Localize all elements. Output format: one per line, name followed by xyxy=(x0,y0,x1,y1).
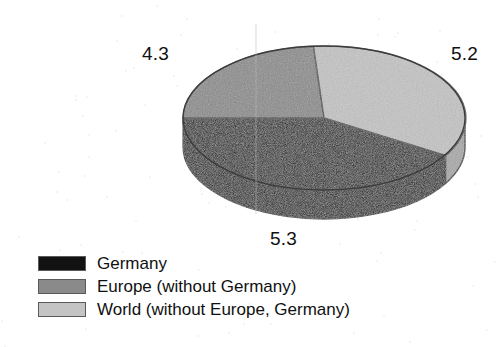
chart-legend: Germany Europe (without Germany) World (… xyxy=(38,252,458,321)
legend-swatch-europe xyxy=(38,279,86,294)
legend-label-europe: Europe (without Germany) xyxy=(97,277,296,296)
legend-item-europe[interactable]: Europe (without Germany) xyxy=(38,275,458,297)
slice-value-label-europe: 4.3 xyxy=(142,43,169,65)
slice-value-label-world: 5.2 xyxy=(451,43,478,65)
legend-swatch-world xyxy=(38,302,86,317)
legend-swatch-germany xyxy=(38,256,86,271)
legend-label-world: World (without Europe, Germany) xyxy=(97,300,350,319)
legend-label-germany: Germany xyxy=(97,254,167,273)
legend-item-germany[interactable]: Germany xyxy=(38,252,458,274)
slice-value-label-germany: 5.3 xyxy=(270,228,297,250)
legend-item-world[interactable]: World (without Europe, Germany) xyxy=(38,298,458,320)
